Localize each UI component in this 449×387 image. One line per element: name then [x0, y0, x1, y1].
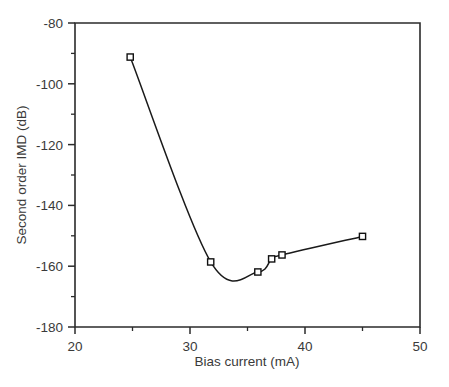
x-tick-label: 30 — [182, 339, 197, 354]
x-tick-label: 40 — [297, 339, 312, 354]
y-tick-label: -180 — [36, 320, 63, 335]
chart-figure: -80-100-120-140-160-18020304050 24.8 mA,… — [0, 0, 449, 387]
y-tick-label: -100 — [36, 77, 63, 92]
data-point-marker: 31.8 mA, -158.6 dB — [208, 259, 214, 265]
y-tick-label: -160 — [36, 259, 63, 274]
plot-frame-box — [75, 23, 420, 327]
y-tick-label: -140 — [36, 198, 63, 213]
data-series-markers: 24.8 mA, -91.2 dB31.8 mA, -158.6 dB35.9 … — [127, 54, 366, 275]
data-point-marker: 38 mA, -156.3 dB — [279, 252, 285, 258]
y-tick-label: -120 — [36, 138, 63, 153]
chart-plot-svg: -80-100-120-140-160-18020304050 24.8 mA,… — [0, 0, 449, 387]
x-tick-label: 50 — [412, 339, 427, 354]
axis-ticks — [68, 23, 420, 334]
plot-frame — [75, 23, 420, 327]
y-axis-title: Second order IMD (dB) — [14, 106, 29, 245]
y-tick-label: -80 — [43, 16, 63, 31]
data-series-curve — [130, 57, 362, 281]
x-axis-title: Bias current (mA) — [194, 354, 299, 369]
data-point-marker: 35.9 mA, -161.9 dB — [255, 269, 261, 275]
axis-tick-labels: -80-100-120-140-160-18020304050 — [36, 16, 428, 354]
imd-curve — [130, 57, 362, 281]
data-point-marker: 45 mA, -150.2 dB — [359, 233, 365, 239]
data-point-marker: 24.8 mA, -91.2 dB — [127, 54, 133, 60]
x-tick-label: 20 — [67, 339, 82, 354]
data-point-marker: 37.1 mA, -157.6 dB — [269, 256, 275, 262]
